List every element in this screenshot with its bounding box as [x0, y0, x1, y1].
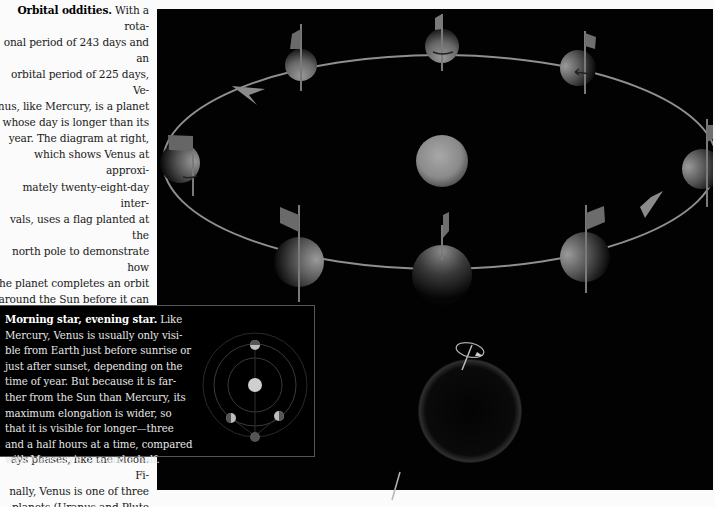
sidebar-line: which shows Venus at approxi-: [0, 146, 149, 178]
inset-line: ther from the Sun than Mercury, its: [5, 390, 193, 406]
inset-line: ble from Earth just before sunrise or: [5, 343, 193, 359]
sidebar-line: whose day is longer than its: [0, 114, 149, 130]
inset-line: just after sunset, depending on the: [5, 359, 193, 375]
sidebar-line: vals, uses a flag planted at the: [0, 211, 149, 243]
flag-icon: [585, 33, 596, 49]
inset-line: maximum elongation is wider, so: [5, 406, 193, 422]
venus-position-3: [560, 31, 596, 94]
inset-line: with Mercury's one and a half.: [5, 452, 193, 468]
orbit-arrow-icon: [232, 86, 265, 105]
inset-line: that it is visible for longer—three: [5, 421, 193, 437]
inset-article: Morning star, evening star. Like Mercury…: [5, 312, 193, 468]
sidebar-line: the planet completes an orbit: [0, 275, 149, 291]
flag-icon: [707, 125, 713, 142]
sidebar-line: nally, Venus is one of three: [0, 483, 149, 499]
venus-position-4: [682, 119, 713, 207]
flag-icon: [290, 29, 301, 49]
inset-line: and a half hours at a time, compared: [5, 437, 193, 453]
sidebar-line: onal period of 243 days and an: [0, 34, 149, 66]
sidebar-heading: Orbital oddities.: [17, 4, 111, 16]
venus-icon: [682, 149, 713, 189]
sun-icon: [248, 378, 262, 392]
venus-position-8: [560, 205, 610, 293]
flag-icon: [168, 135, 193, 151]
flag-icon: [443, 212, 449, 238]
venus-icon: [560, 50, 596, 86]
venus-icon: [418, 359, 522, 463]
flag-icon: [435, 14, 442, 30]
flag-icon: [586, 206, 605, 230]
sidebar-line: orbital period of 225 days, Ve-: [0, 66, 149, 98]
sidebar-line: year. The diagram at right,: [0, 130, 149, 146]
inset-line-0: Morning star, evening star. Like: [5, 312, 193, 328]
sun-icon: [416, 135, 468, 187]
inset-line: Mercury, Venus is usually only visi-: [5, 328, 193, 344]
venus-position-1: [285, 24, 317, 91]
flag-icon: [280, 207, 299, 232]
elongation-diagram: [195, 306, 315, 458]
sidebar-line-0: Orbital oddities. With a rota-: [0, 2, 149, 34]
sidebar-line: nus, like Mercury, is a planet: [0, 98, 149, 114]
orbit-arrow-icon: [640, 191, 663, 218]
venus-spin-detail: [418, 340, 522, 463]
morning-star-inset: Morning star, evening star. Like Mercury…: [0, 305, 315, 457]
sidebar-line: north pole to demonstrate how: [0, 243, 149, 275]
inset-heading: Morning star, evening star.: [5, 313, 157, 325]
earth-icon: [250, 432, 260, 442]
venus-position-7: [412, 212, 472, 305]
sidebar-line: planets (Uranus and Pluto are: [0, 499, 149, 507]
inset-line: time of year. But because it is far-: [5, 374, 193, 390]
venus-position-2: [425, 14, 459, 71]
sidebar-line: mately twenty-eight-day inter-: [0, 179, 149, 211]
venus-position-6: [274, 205, 324, 302]
